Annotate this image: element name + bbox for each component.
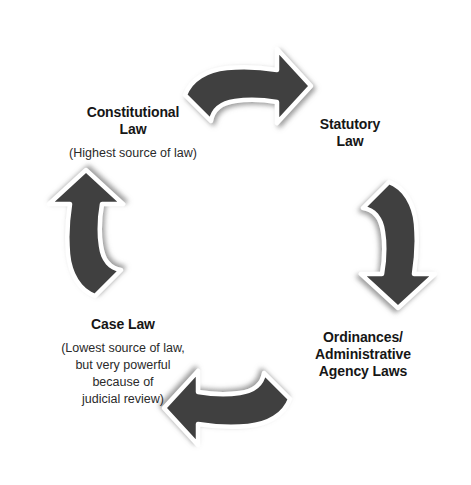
node-ordinances-administrative-agency-laws: Ordinances/ Administrative Agency Laws (288, 329, 438, 380)
node-constitutional-law: Constitutional Law (Highest source of la… (33, 104, 233, 162)
node-title-line2: Law (33, 121, 233, 138)
node-title-line1: Constitutional (33, 104, 233, 121)
node-subtitle-line4: judicial review) (28, 391, 218, 408)
node-title-line3: Agency Laws (288, 363, 438, 380)
cycle-arrow-left (14, 166, 164, 316)
node-title-line1: Case Law (28, 316, 218, 333)
node-title-line1: Statutory (290, 116, 410, 133)
node-subtitle-line2: but very powerful (28, 357, 218, 374)
node-subtitle-line1: (Lowest source of law, (28, 340, 218, 357)
node-subtitle-line1: (Highest source of law) (33, 145, 233, 162)
node-title-line2: Law (290, 133, 410, 150)
cycle-arrow-layer (0, 0, 471, 485)
node-subtitle-line3: because of (28, 374, 218, 391)
node-statutory-law: Statutory Law (290, 116, 410, 150)
node-title-line2: Administrative (288, 346, 438, 363)
node-subtitle: (Lowest source of law, but very powerful… (28, 340, 218, 408)
node-case-law: Case Law (Lowest source of law, but very… (28, 316, 218, 408)
cycle-arrow-right (320, 162, 470, 312)
node-title-line1: Ordinances/ (288, 329, 438, 346)
legal-hierarchy-cycle-diagram: Constitutional Law (Highest source of la… (0, 0, 471, 485)
